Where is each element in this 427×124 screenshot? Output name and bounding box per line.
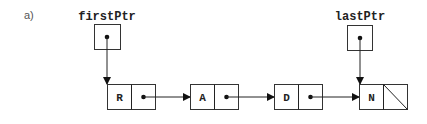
- linked-list-diagram: a) firstPtr lastPtr R A D: [0, 0, 427, 124]
- last-pointer-label: lastPtr: [335, 10, 385, 24]
- list-node-r: R: [108, 85, 191, 110]
- node-value: N: [368, 92, 375, 104]
- list-node-n: N: [360, 85, 408, 110]
- node-value: D: [283, 92, 290, 104]
- list-node-a: A: [191, 85, 275, 110]
- first-pointer-label: firstPtr: [78, 10, 136, 24]
- list-node-d: D: [275, 85, 360, 110]
- last-pointer: lastPtr: [335, 10, 385, 84]
- node-value: R: [116, 92, 123, 104]
- first-pointer: firstPtr: [78, 10, 136, 84]
- node-value: A: [199, 92, 206, 104]
- part-label: a): [24, 9, 34, 21]
